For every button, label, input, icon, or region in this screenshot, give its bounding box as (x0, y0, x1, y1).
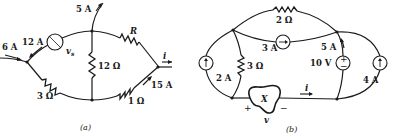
wire-b-10v-br (337, 70, 343, 99)
wire-b-tr-10v (337, 32, 343, 56)
node-a-right (156, 65, 159, 68)
wire-a-left-vs (27, 45, 48, 62)
wire-b-x-br (279, 98, 337, 99)
wire-b-2ohm-tr (297, 11, 337, 32)
circuit-figure: vs R 12 Ω 3 Ω 1 Ω i 15 A 6 A (0, 0, 395, 137)
wire-b-3ohm-bl (232, 76, 241, 98)
circuit-a: vs R 12 Ω 3 Ω 1 Ω i 15 A 6 A (0, 3, 173, 132)
node-b-top-right (335, 30, 338, 33)
label-6a: 6 A (2, 42, 18, 52)
wire-a-bottom-1ohm (92, 96, 117, 100)
caption-a: (a) (80, 123, 91, 132)
label-plus-x: + (244, 103, 252, 113)
wire-a-in (0, 58, 27, 62)
label-12ohm: 12 Ω (98, 61, 121, 71)
label-i-b: i (305, 83, 308, 93)
wire-a-vs-top (62, 31, 92, 38)
label-2a: 2 A (216, 73, 232, 83)
wire-a-top-r (92, 31, 120, 38)
vs-minus-sign: − (340, 61, 348, 71)
label-5a-a: 5 A (76, 4, 92, 14)
label-12a: 12 A (22, 37, 44, 47)
wire-a-top-out (92, 3, 103, 31)
node-a-left (25, 60, 28, 63)
node-a-top (90, 29, 93, 32)
caption-b: (b) (286, 125, 297, 134)
wire-a-left-3ohm (27, 62, 42, 80)
node-b-bottom-right (335, 97, 338, 100)
resistor-2ohm-icon (273, 7, 297, 12)
circuit-b: 2 Ω 3 A 2 A 3 Ω X v + − i + (199, 7, 387, 134)
label-5a-b: 5 A (321, 42, 337, 52)
arrow-head-i-b (309, 92, 313, 96)
label-minus-x: − (280, 103, 288, 113)
label-3ohm: 3 Ω (37, 91, 54, 101)
label-x: X (260, 94, 268, 104)
resistor-3ohm-b-icon (238, 55, 244, 76)
arrow-head-i-a (168, 60, 172, 64)
label-4a: 4 A (363, 75, 379, 85)
resistor-12ohm-icon (89, 52, 95, 78)
wire-b-tl-3a (233, 30, 276, 42)
node-b-bottom-left (230, 96, 233, 99)
label-r: R (129, 26, 137, 36)
node-b-top-left (231, 28, 234, 31)
label-3ohm-b: 3 Ω (247, 61, 264, 71)
label-3a: 3 A (262, 43, 278, 53)
label-10v: 10 V (310, 58, 332, 68)
label-i-a: i (163, 51, 166, 61)
wire-b-3a-tr (290, 32, 337, 42)
wire-b-tl-2ohm (233, 10, 273, 30)
label-vs: vs (66, 46, 75, 57)
label-2ohm: 2 Ω (276, 15, 293, 25)
wire-a-3ohm-bottom (60, 93, 92, 100)
wire-b-tl-2a (206, 30, 233, 56)
wire-a-r-right (139, 42, 158, 66)
node-a-bottom (90, 98, 93, 101)
label-15a: 15 A (151, 80, 173, 90)
label-1ohm: 1 Ω (128, 96, 145, 106)
label-v: v (264, 115, 270, 125)
